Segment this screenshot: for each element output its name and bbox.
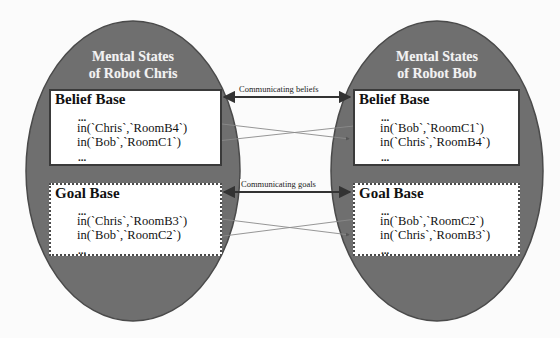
bob-title-line2: of Robot Bob — [372, 65, 502, 82]
bob-goal-base-title: Goal Base — [359, 185, 424, 202]
bob-title-line1: Mental States — [372, 48, 502, 65]
bob-goal-fact-2: in(`Chris`,`RoomB3`) — [380, 228, 490, 243]
bob-goal-fact-1: in(`Bob`,`RoomC2`) — [380, 214, 484, 229]
chris-title-line2: of Robot Chris — [68, 65, 198, 82]
chris-ellipse-title: Mental States of Robot Chris — [68, 48, 198, 82]
chris-goal-fact-1: in(`Chris`,`RoomB3`) — [77, 214, 187, 229]
chris-belief-base-title: Belief Base — [55, 91, 125, 108]
bob-goal-dots-bottom: ... — [381, 246, 389, 254]
chris-belief-dots-top: ... — [78, 113, 86, 121]
chris-goal-base-title: Goal Base — [55, 185, 120, 202]
chris-goal-dots-bottom: ... — [78, 246, 86, 254]
chris-belief-fact-1: in(`Chris`,`RoomB4`) — [77, 121, 187, 136]
bob-belief-base-title: Belief Base — [359, 91, 429, 108]
bob-ellipse-title: Mental States of Robot Bob — [372, 48, 502, 82]
communicating-beliefs-label: Communicating beliefs — [238, 84, 320, 94]
chris-goal-fact-2: in(`Bob`,`RoomC2`) — [77, 228, 181, 243]
bob-belief-dots-bottom: ... — [381, 153, 389, 161]
bob-belief-dots-top: ... — [381, 113, 389, 121]
chris-goal-base: Goal Base ... in(`Chris`,`RoomB3`) in(`B… — [49, 183, 222, 256]
communicating-goals-label: Communicating goals — [240, 179, 317, 189]
bob-goal-base: Goal Base ... in(`Bob`,`RoomC2`) in(`Chr… — [353, 183, 520, 256]
bob-belief-fact-1: in(`Bob`,`RoomC1`) — [380, 121, 484, 136]
bob-belief-base: Belief Base ... in(`Bob`,`RoomC1`) in(`C… — [353, 89, 520, 166]
bob-belief-fact-2: in(`Chris`,`RoomB4`) — [380, 135, 490, 150]
chris-belief-dots-bottom: ... — [78, 153, 86, 161]
chris-title-line1: Mental States — [68, 48, 198, 65]
chris-belief-fact-2: in(`Bob`,`RoomC1`) — [77, 135, 181, 150]
chris-belief-base: Belief Base ... in(`Chris`,`RoomB4`) in(… — [49, 89, 222, 166]
